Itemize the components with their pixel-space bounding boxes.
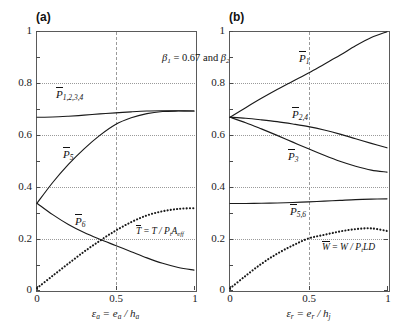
- ytick-a-02: [36, 239, 40, 240]
- ytick-b-07: [229, 109, 233, 110]
- gridline-b-x05: [309, 32, 310, 290]
- ytick-a-06: [36, 135, 40, 136]
- t-bar-eff-sub: eff: [177, 230, 183, 237]
- w-bar-eq: =: [330, 242, 340, 252]
- axis-b-eq: = e: [294, 307, 312, 319]
- xtick-a-05: [116, 286, 117, 290]
- axis-b-div: / h: [314, 307, 328, 319]
- p-bar-1-sub: 1: [306, 57, 310, 66]
- ytick-a-07: [36, 109, 40, 110]
- ytick-b-05: [229, 161, 233, 162]
- ylabel-a-06: 0.6: [2, 128, 32, 140]
- ylabel-a-1: 1: [2, 24, 32, 36]
- ylabel-b-1: 1: [197, 24, 225, 36]
- ylabel-a-04: 0.4: [2, 180, 32, 192]
- panel-a-tag: (a): [36, 10, 51, 24]
- ylabel-b-02: 0.2: [197, 232, 225, 244]
- xtick-b-1: [387, 286, 388, 290]
- ytick-a-04: [36, 187, 40, 188]
- p-bar-3-sub: 3: [295, 155, 299, 164]
- ylabel-a-08: 0.8: [2, 76, 32, 88]
- ytick-b-08: [229, 83, 233, 84]
- p-bar-1234-sub: 1,2,3,4: [63, 93, 84, 102]
- p-bar-24-sub: 2,4: [299, 113, 308, 122]
- axis-a-eq: = e: [100, 307, 118, 319]
- p-bar-56-sym: P: [290, 205, 297, 217]
- axis-b-h-sub: j: [328, 312, 330, 321]
- p-bar-1-sym: P: [299, 52, 306, 64]
- curve-label-a-p6: P6: [75, 215, 85, 229]
- curve-label-b-wbar: W = W / PtLD: [322, 242, 375, 253]
- xlabel-a-05: 0.5: [103, 292, 129, 304]
- p-bar-24-sym: P: [292, 108, 299, 120]
- axis-title-a: εa = ea / ha: [36, 307, 195, 321]
- ylabel-b-04: 0.4: [197, 180, 225, 192]
- xtick-a-0: [37, 286, 38, 290]
- p-bar-6-sym: P: [75, 215, 82, 227]
- ytick-a-03: [36, 213, 40, 214]
- gridline-a-x05: [116, 32, 117, 290]
- w-bar-pt-sub: t: [361, 246, 363, 253]
- curve-label-b-p24: P2,4: [292, 108, 308, 122]
- xlabel-b-1: 1: [379, 292, 397, 304]
- p-bar-3-sym: P: [288, 150, 295, 162]
- axis-a-h-sub: a: [135, 312, 139, 321]
- curve-label-a-tbar: T = T / PtAeff: [136, 226, 184, 237]
- curve-label-a-p1234: P1,2,3,4: [56, 88, 83, 102]
- p-bar-6-sub: 6: [82, 220, 86, 229]
- xtick-a-1: [194, 286, 195, 290]
- curve-label-b-p1: P1: [299, 52, 309, 66]
- ytick-b-01: [229, 265, 233, 266]
- xtick-b-05: [309, 286, 310, 290]
- xlabel-b-0: 0: [221, 292, 239, 304]
- w-bar-sym: W: [322, 242, 330, 252]
- ytick-b-right-02: [384, 239, 388, 240]
- xtick-b-0: [230, 286, 231, 290]
- ytick-a-05: [36, 161, 40, 162]
- curve-label-b-p3: P3: [288, 150, 298, 164]
- axis-title-b: εr = er / hj: [229, 307, 388, 321]
- ytick-b-02: [229, 239, 233, 240]
- t-bar-pt-sub: t: [170, 230, 172, 237]
- ytick-a-01: [36, 265, 40, 266]
- xlabel-b-05: 0.5: [296, 292, 322, 304]
- t-bar-sym: T: [136, 226, 141, 236]
- p-bar-5-sym: P: [63, 148, 70, 160]
- curve-label-a-p5: P5: [63, 148, 73, 162]
- title-eq1: = 0.67 and: [171, 52, 221, 63]
- panel-b-tag: (b): [229, 10, 244, 24]
- ytick-a-1: [36, 31, 40, 32]
- t-bar-eq: =: [141, 226, 151, 236]
- ytick-a-08: [36, 83, 40, 84]
- ytick-b-right-0: [384, 290, 388, 291]
- p-bar-1234-sym: P: [56, 88, 63, 100]
- ytick-a-0: [36, 290, 40, 291]
- ytick-b-1: [229, 31, 233, 32]
- ytick-b-04: [229, 187, 233, 188]
- curve-label-b-p56: P5,6: [290, 205, 306, 219]
- axis-a-div: / h: [121, 307, 135, 319]
- ytick-b-06: [229, 135, 233, 136]
- ytick-b-09: [229, 57, 233, 58]
- ytick-a-09: [36, 57, 40, 58]
- ylabel-a-02: 0.2: [2, 232, 32, 244]
- ylabel-b-06: 0.6: [197, 128, 225, 140]
- ytick-b-0: [229, 290, 233, 291]
- ytick-b-03: [229, 213, 233, 214]
- ylabel-b-08: 0.8: [197, 76, 225, 88]
- xlabel-a-0: 0: [28, 292, 46, 304]
- p-bar-56-sub: 5,6: [297, 210, 306, 219]
- p-bar-5-sub: 5: [70, 153, 74, 162]
